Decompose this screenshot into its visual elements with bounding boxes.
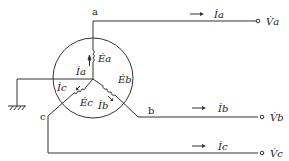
current-a-label: İa xyxy=(75,66,86,77)
terminal-b-icon xyxy=(260,115,264,119)
emf-b-label: Ėb xyxy=(117,74,132,85)
current-b-label: İb xyxy=(97,100,108,111)
node-a-label: a xyxy=(92,6,98,17)
node-b-label: b xyxy=(148,105,154,116)
coil-b-icon xyxy=(103,86,115,95)
line-current-c-label: İc xyxy=(217,141,228,152)
coil-a-icon xyxy=(93,50,95,62)
line-current-b-label: İb xyxy=(217,103,228,114)
terminal-c-icon xyxy=(260,151,264,155)
arrow-line-c-icon xyxy=(202,144,206,148)
voltage-b-label: V̇b xyxy=(270,112,284,123)
coil-c-icon xyxy=(74,87,86,94)
generator-diagram: a b c Ėa Ėb Ėc İa İb İc İa İb İc V̇a V̇b… xyxy=(0,0,289,161)
current-c-label: İc xyxy=(56,82,67,93)
voltage-a-label: V̇a xyxy=(266,16,279,27)
emf-c-label: Ėc xyxy=(79,97,93,108)
line-b xyxy=(115,95,258,117)
line-a xyxy=(93,21,258,50)
voltage-c-label: V̇c xyxy=(270,148,283,159)
arrow-ia-icon xyxy=(88,55,91,66)
terminal-a-icon xyxy=(256,19,260,23)
node-c-label: c xyxy=(40,111,46,122)
emf-a-label: Ėa xyxy=(97,53,111,64)
arrow-line-a-icon xyxy=(200,12,204,16)
arrow-line-b-icon xyxy=(202,106,206,110)
line-current-a-label: İa xyxy=(213,9,224,20)
